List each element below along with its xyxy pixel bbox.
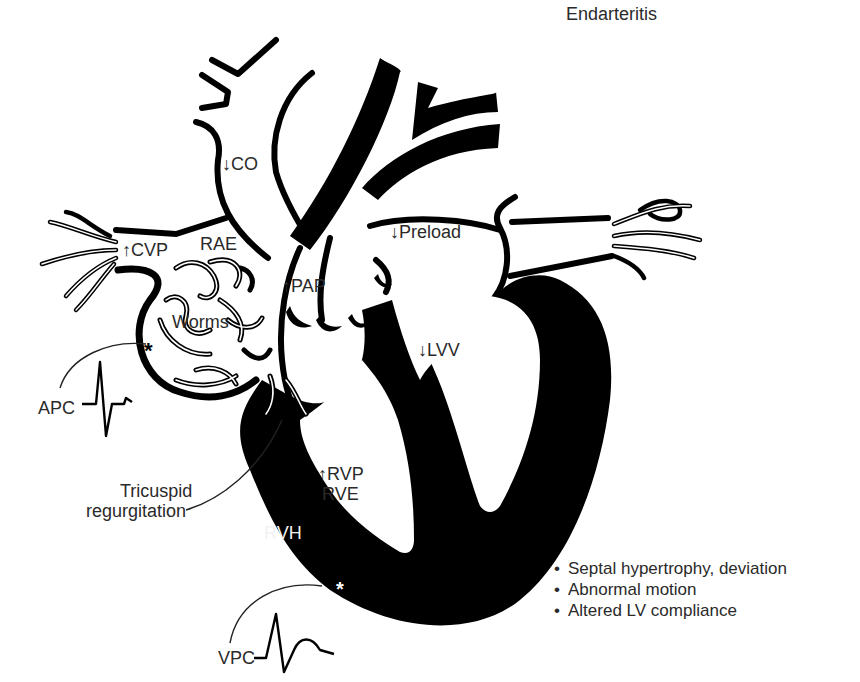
label-pulmonary-artery-pressure: ↑PAP <box>282 276 326 296</box>
label-tricuspid: Tricuspid <box>120 481 192 501</box>
septal-finding-item: Abnormal motion <box>554 579 787 600</box>
label-regurgitation: regurgitation <box>86 501 186 521</box>
left-atrium <box>370 197 612 298</box>
label-preload: ↓Preload <box>390 222 461 242</box>
label-worms: Worms <box>172 312 229 332</box>
pulmonary-vein-worm-tuft <box>614 201 700 278</box>
superior-vessels <box>196 40 312 258</box>
label-apc: APC <box>38 398 75 418</box>
label-right-ventricular-hypertrophy: RVH <box>264 523 302 543</box>
apc-ecg-trace <box>82 362 132 436</box>
label-right-atrial-enlargement: RAE <box>200 234 237 254</box>
label-left-ventricular-volume: ↓LVV <box>418 340 460 360</box>
label-endarteritis: Endarteritis <box>566 4 657 24</box>
septal-findings-list: Septal hypertrophy, deviation Abnormal m… <box>554 558 787 621</box>
label-cardiac-output: ↓CO <box>222 154 258 174</box>
septal-finding-item: Septal hypertrophy, deviation <box>554 558 787 579</box>
septal-finding-item: Altered LV compliance <box>554 600 787 621</box>
label-central-venous-pressure: ↑CVP <box>122 240 168 260</box>
label-right-ventricular-enlargement: RVE <box>322 484 359 504</box>
label-vpc: VPC <box>218 648 255 668</box>
aorta-outline <box>281 238 330 420</box>
vpc-ecg-trace <box>254 614 334 672</box>
apc-origin-marker: * <box>144 338 153 363</box>
label-right-ventricular-pressure: ↑RVP <box>318 464 364 484</box>
vpc-origin-marker: * <box>336 578 344 600</box>
